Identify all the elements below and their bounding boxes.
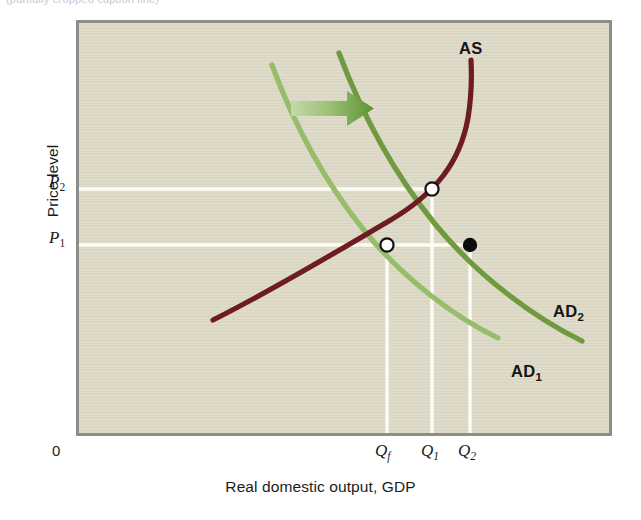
y-tick-label-p1: P1 xyxy=(49,228,65,249)
x-axis-title: Real domestic output, GDP xyxy=(0,478,641,496)
as-curve-label-base: AS xyxy=(459,39,483,57)
ad2-at-p1-point xyxy=(463,238,477,252)
cropped-caption-text: (partially cropped caption line) xyxy=(6,0,159,5)
figure-root: (partially cropped caption line) xyxy=(0,0,641,520)
y-tick-base-p2: P xyxy=(49,172,59,191)
x-tick-label-q1: Q1 xyxy=(421,441,439,462)
ad2-curve-label-sub: 2 xyxy=(577,311,584,323)
x-tick-label-q2: Q2 xyxy=(458,441,476,462)
x-tick-base-qf: Q xyxy=(375,441,387,460)
ad1-curve-label: AD1 xyxy=(511,362,542,383)
new-equilibrium-point xyxy=(425,182,438,195)
x-tick-base-q1: Q xyxy=(421,441,433,460)
ad2-curve-label-base: AD xyxy=(553,302,577,320)
x-tick-sub-q2: 2 xyxy=(470,450,476,462)
initial-equilibrium-point xyxy=(380,238,393,251)
x-tick-base-q2: Q xyxy=(458,441,470,460)
y-tick-label-p2: P2 xyxy=(49,172,65,193)
x-tick-sub-q1: 1 xyxy=(433,450,439,462)
cropped-caption: (partially cropped caption line) xyxy=(0,0,641,12)
origin-label: 0 xyxy=(52,442,60,459)
x-tick-sub-qf: f xyxy=(387,450,390,462)
as-curve-label: AS xyxy=(459,39,483,58)
y-tick-sub-p2: 2 xyxy=(59,181,65,193)
ad2-curve-label: AD2 xyxy=(553,302,584,323)
ad1-curve-label-sub: 1 xyxy=(535,371,542,383)
y-tick-sub-p1: 1 xyxy=(59,237,65,249)
y-tick-base-p1: P xyxy=(49,228,59,247)
ad1-curve-label-base: AD xyxy=(511,362,535,380)
x-tick-label-qf: Qf xyxy=(375,441,390,462)
